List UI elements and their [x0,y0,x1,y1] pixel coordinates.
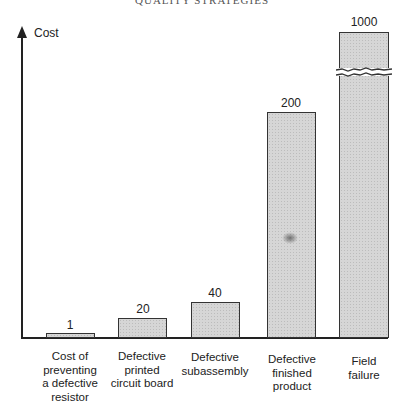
bar-value-label: 1000 [334,15,394,29]
bar-value-label: 20 [113,302,173,316]
y-axis [21,36,23,338]
bar-value-label: 40 [185,286,245,300]
category-label: Defective finished product [252,353,332,394]
page-header: QUALITY STRATEGIES [0,0,404,6]
axis-break-marker [336,68,392,76]
category-label: Field failure [324,355,404,382]
category-label: Defective printed circuit board [102,350,182,391]
y-axis-label: Cost [34,26,59,40]
bar-defective-pcb [118,318,167,338]
bar-value-label: 200 [261,96,321,110]
print-smudge [282,232,298,244]
bar-defective-subassembly [191,302,240,338]
category-label: Defective subassembly [175,351,255,378]
bar-prevent-resistor [46,333,95,338]
bar-defective-finished-product [267,112,316,338]
bar-value-label: 1 [40,318,100,332]
category-label: Cost of preventing a defective resistor [30,350,110,404]
